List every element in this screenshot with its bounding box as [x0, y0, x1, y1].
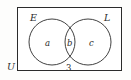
venn-diagram-figure: U E L a b c 3 — [0, 0, 131, 80]
outside-region-count: 3 — [66, 64, 71, 73]
region-label-b: b — [67, 39, 72, 48]
region-label-a: a — [45, 39, 50, 48]
set-label-l: L — [104, 13, 110, 23]
set-label-e: E — [30, 13, 37, 23]
region-label-c: c — [89, 39, 94, 48]
universal-set-label: U — [7, 62, 15, 72]
